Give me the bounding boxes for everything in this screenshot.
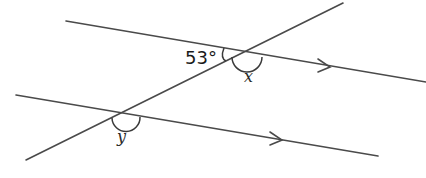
parallel-lines-diagram: 53° x y bbox=[0, 0, 426, 178]
transversal-line bbox=[26, 3, 343, 160]
angle-y-label: y bbox=[116, 127, 127, 146]
bottom-parallel-line bbox=[16, 95, 378, 156]
angle-53-arc bbox=[222, 48, 226, 61]
angle-x-label: x bbox=[244, 67, 253, 86]
angle-53-label: 53° bbox=[185, 47, 217, 68]
